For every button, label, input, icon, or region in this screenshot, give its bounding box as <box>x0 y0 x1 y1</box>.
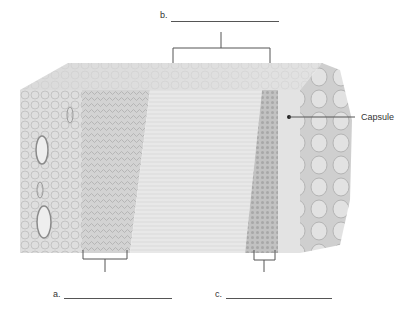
region-capsule-inner <box>278 90 300 253</box>
capsule-label: Capsule <box>361 112 394 122</box>
diagram-stage: b. Capsule a. c. <box>0 0 417 319</box>
label-b-letter: b. <box>160 10 168 20</box>
region-b-striated <box>130 90 262 253</box>
block-side-face <box>300 63 352 253</box>
tissue-block-illustration <box>0 0 417 319</box>
label-a-letter: a. <box>53 289 61 299</box>
label-c-answer-blank[interactable] <box>226 298 332 299</box>
label-b-answer-blank[interactable] <box>171 21 279 22</box>
label-a-answer-blank[interactable] <box>64 298 172 299</box>
label-c-letter: c. <box>215 289 222 299</box>
